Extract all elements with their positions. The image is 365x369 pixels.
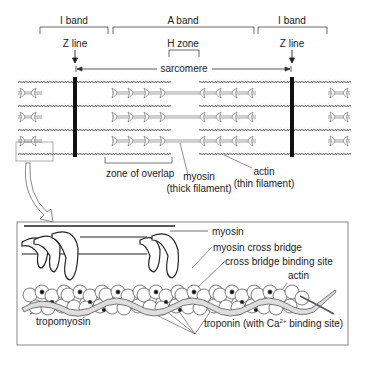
a-band-label: A band	[167, 15, 198, 26]
z-line-left-label: Z line	[63, 38, 87, 49]
actin-filaments	[18, 79, 351, 155]
myosin-filaments	[18, 92, 350, 142]
detail-actin-label: actin	[288, 270, 309, 281]
troponin-label: troponin (with Ca2+ binding site)	[204, 316, 343, 329]
i-band-left-label: I band	[60, 15, 88, 26]
detail-myosin-label: myosin	[212, 226, 244, 237]
sarcomere-label: sarcomere	[160, 63, 207, 74]
z-line-arrows	[73, 50, 295, 63]
actin-leader	[224, 155, 252, 168]
z-line-right	[290, 77, 294, 157]
h-zone-label: H zone	[167, 38, 199, 49]
zone-of-overlap-label: zone of overlap	[106, 168, 174, 179]
overlap-bracket	[105, 157, 172, 163]
myosin-sub-label: (thick filament)	[166, 183, 231, 194]
tropomyosin-label: tropomyosin	[36, 316, 90, 327]
actin-sub-label: (thin filament)	[234, 178, 295, 189]
cross-bridge-label: myosin cross bridge	[213, 242, 302, 253]
zoom-callout-arrow	[25, 163, 53, 222]
i-band-right-label: I band	[278, 15, 306, 26]
troponin-text: troponin (with Ca	[204, 318, 280, 329]
troponin-text-end: binding site)	[286, 318, 343, 329]
z-line-left	[73, 77, 77, 157]
binding-site-label: cross bridge binding site	[225, 256, 333, 267]
actin-label: actin	[253, 166, 274, 177]
myosin-label: myosin	[183, 171, 215, 182]
z-line-right-label: Z line	[280, 38, 304, 49]
myosin-heads	[20, 88, 348, 146]
